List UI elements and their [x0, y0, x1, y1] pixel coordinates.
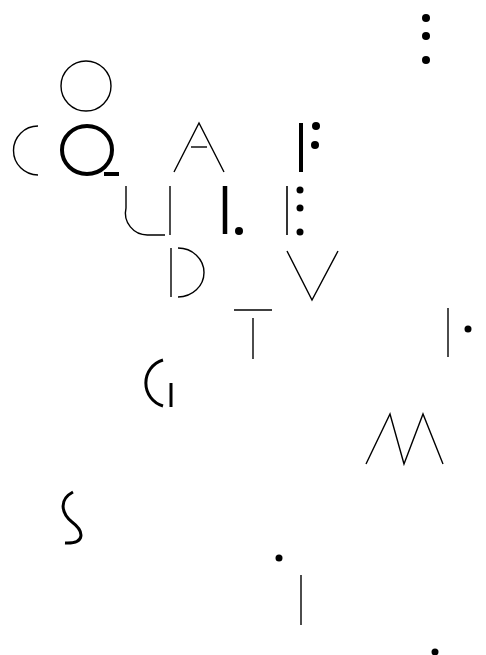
glyph-s-bold: [63, 492, 81, 543]
glyph-c-thin: [13, 126, 38, 175]
dot-bottom: [432, 649, 439, 655]
glyph-g-bold: [146, 360, 171, 407]
glyph-d-thin: [171, 248, 204, 297]
glyph-o-thin: [61, 61, 111, 111]
glyph-m-thin: [366, 414, 443, 464]
glyph-q-bold: [62, 126, 119, 174]
glyph-v-thin: [287, 251, 338, 300]
glyph-a-thin: [174, 123, 224, 172]
glyph-i-lower: [276, 555, 302, 626]
ellipsis-dots-icon: [422, 14, 430, 64]
glyph-i-middot: [448, 308, 472, 357]
typographic-artwork: [0, 0, 486, 655]
glyph-t-thin: [234, 310, 272, 359]
glyph-e-fragment: [287, 186, 304, 236]
glyph-i-dot: [225, 186, 243, 235]
glyph-u-thin: [125, 186, 170, 235]
glyph-f-fragment: [301, 122, 320, 172]
